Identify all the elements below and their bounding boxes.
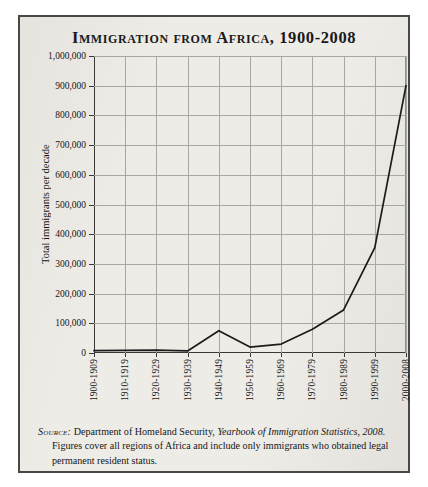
source-note: Source: Department of Homeland Security,… xyxy=(38,425,392,468)
x-tick-mark xyxy=(125,353,126,357)
immigration-trend-line xyxy=(94,86,406,351)
x-tick-mark xyxy=(94,353,95,357)
x-tick-label: 2000-2008 xyxy=(401,359,411,401)
x-tick-label: 1980-1989 xyxy=(339,359,349,401)
y-tick-label: 1,000,000 xyxy=(48,51,86,61)
x-tick-label: 1920-1929 xyxy=(151,359,161,401)
x-tick-label: 1900-1909 xyxy=(89,359,99,401)
x-tick-mark xyxy=(250,353,251,357)
chart-title: Immigration from Africa, 1900-2008 xyxy=(20,28,408,48)
y-tick-label: 100,000 xyxy=(55,318,86,328)
x-tick-mark xyxy=(344,353,345,357)
source-text-1: Department of Homeland Security, xyxy=(71,426,217,437)
y-axis-title: Total immigrants per decade xyxy=(40,56,51,353)
plot-area: 0100,000200,000300,000400,000500,000600,… xyxy=(94,56,406,353)
y-tick-label: 400,000 xyxy=(55,229,86,239)
y-tick-label: 200,000 xyxy=(55,289,86,299)
y-tick-label: 500,000 xyxy=(55,200,86,210)
x-tick-label: 1990-1999 xyxy=(370,359,380,401)
x-tick-label: 1930-1939 xyxy=(183,359,193,401)
y-tick-label: 900,000 xyxy=(55,81,86,91)
x-tick-label: 1950-1959 xyxy=(245,359,255,401)
gridline-vertical xyxy=(406,56,407,353)
x-tick-label: 1910-1919 xyxy=(120,359,130,401)
x-tick-label: 1960-1969 xyxy=(276,359,286,401)
y-tick-label: 600,000 xyxy=(55,170,86,180)
x-tick-label: 1940-1949 xyxy=(214,359,224,401)
source-text-2: Figures cover all regions of Africa and … xyxy=(52,440,388,465)
x-tick-mark xyxy=(188,353,189,357)
y-tick-label: 300,000 xyxy=(55,259,86,269)
x-tick-mark xyxy=(375,353,376,357)
x-tick-label: 1970-1979 xyxy=(307,359,317,401)
y-tick-label: 0 xyxy=(81,348,86,358)
x-tick-mark xyxy=(406,353,407,357)
data-line-chart xyxy=(94,56,406,353)
x-tick-mark xyxy=(156,353,157,357)
figure-frame: Immigration from Africa, 1900-2008 Total… xyxy=(18,15,410,473)
y-tick-label: 800,000 xyxy=(55,110,86,120)
source-label: Source: xyxy=(38,426,71,437)
x-tick-mark xyxy=(312,353,313,357)
source-publication-title: Yearbook of Immigration Statistics, 2008… xyxy=(217,426,385,437)
y-tick-label: 700,000 xyxy=(55,140,86,150)
x-tick-mark xyxy=(219,353,220,357)
x-tick-mark xyxy=(281,353,282,357)
